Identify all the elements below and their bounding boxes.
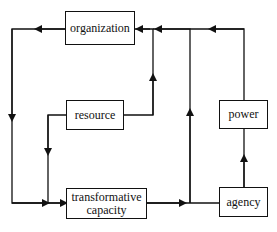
node-label: agency [227,196,261,209]
node-agency: agency [219,187,268,217]
node-transformative-capacity: transformative capacity [66,188,147,219]
node-power: power [219,100,268,129]
node-label: power [229,108,259,121]
edge-power-to-organization [190,29,244,100]
edge-resource-to-capacity [48,115,66,203]
edge-organization-to-capacity [12,29,66,203]
node-resource: resource [66,100,124,130]
node-label: resource [75,109,116,122]
node-label: organization [70,22,130,35]
node-organization: organization [65,11,135,45]
edge-capacity-to-organization [153,29,190,203]
node-label: transformative capacity [67,191,146,217]
